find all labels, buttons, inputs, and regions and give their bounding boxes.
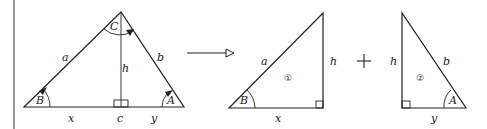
hollow-arrow-right-icon bbox=[187, 49, 234, 57]
altitude-label-h: h bbox=[122, 62, 129, 75]
triangle-2-right-angle-marker bbox=[402, 101, 410, 108]
plus-icon bbox=[357, 54, 371, 68]
triangle-2-number: ② bbox=[416, 73, 424, 83]
triangle-decomposition-diagram: C B A a b h x c y B a h x ① A b h y ② bbox=[0, 0, 487, 129]
triangle-2-label-h: h bbox=[390, 55, 397, 68]
triangle-1-angle-arc-B bbox=[247, 90, 255, 108]
triangle-1-number: ① bbox=[284, 73, 292, 83]
vertex-label-A: A bbox=[166, 94, 175, 107]
side-label-b: b bbox=[157, 51, 164, 64]
triangle-1-right-angle-marker bbox=[316, 101, 323, 108]
margin-bar bbox=[13, 0, 15, 129]
triangle-1-label-h: h bbox=[330, 55, 337, 68]
base-label-y: y bbox=[150, 112, 158, 125]
vertex-label-C: C bbox=[110, 20, 119, 33]
base-label-c: c bbox=[117, 112, 123, 125]
triangle-2-label-b: b bbox=[443, 55, 450, 68]
triangle-1-label-x: x bbox=[275, 112, 282, 125]
triangle-2-angle-label-A: A bbox=[448, 94, 457, 107]
triangle-2-label-y: y bbox=[430, 112, 438, 125]
triangle-1-label-a: a bbox=[261, 55, 268, 68]
side-label-a: a bbox=[62, 51, 69, 64]
vertex-label-B: B bbox=[35, 94, 44, 107]
arc-arrowhead-C bbox=[126, 29, 134, 36]
base-label-x: x bbox=[68, 112, 75, 125]
triangle-1-angle-label-B: B bbox=[239, 94, 248, 107]
